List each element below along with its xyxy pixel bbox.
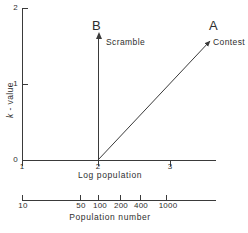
pop-tick-label-200: 200 — [114, 201, 128, 210]
pop-tick-10 — [22, 195, 23, 200]
y-axis-title: k - value — [5, 76, 15, 124]
pop-tick-1000 — [166, 195, 167, 200]
series-arrowhead-scramble — [96, 32, 102, 39]
pop-tick-label-100: 100 — [93, 201, 107, 210]
pop-tick-label-10: 10 — [18, 201, 27, 210]
pop-tick-100 — [98, 195, 99, 200]
x-tick-label-1: 1 — [20, 162, 25, 171]
pop-tick-200 — [120, 195, 121, 200]
y-tick-2 — [23, 8, 28, 9]
series-line-contest — [0, 0, 248, 233]
y-tick-label-2: 2 — [4, 3, 18, 12]
y-tick-0 — [23, 160, 28, 161]
x-tick-label-3: 3 — [168, 162, 173, 171]
pop-tick-label-50: 50 — [76, 201, 85, 210]
pop-tick-50 — [80, 195, 81, 200]
series-letter-scramble: B — [92, 18, 101, 33]
x-axis-line — [22, 160, 216, 161]
series-letter-contest: A — [209, 18, 218, 33]
y-tick-1 — [23, 84, 28, 85]
chart-figure: 2 1 0 k - value 1 2 3 Log population 10 … — [0, 0, 248, 233]
pop-tick-label-400: 400 — [134, 201, 148, 210]
series-line-scramble — [98, 37, 99, 160]
pop-tick-label-1000: 1000 — [159, 201, 178, 210]
y-tick-label-0: 0 — [4, 155, 18, 164]
y-axis-symbol: k — [5, 113, 15, 118]
series-label-scramble: Scramble — [106, 37, 145, 47]
x-axis-title: Log population — [78, 170, 142, 180]
population-axis-title: Population number — [69, 212, 151, 222]
y-axis-title-rest: - value — [5, 82, 15, 113]
pop-tick-400 — [140, 195, 141, 200]
series-label-contest: Contest — [213, 37, 245, 47]
